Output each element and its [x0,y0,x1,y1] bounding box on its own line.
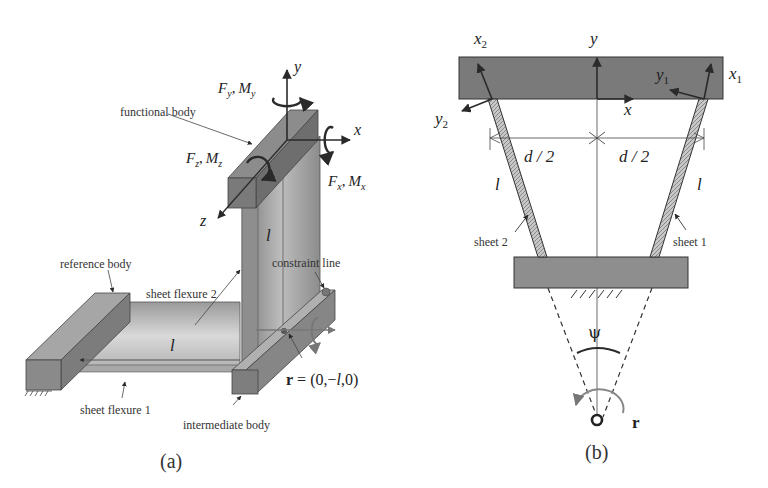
diagram-canvas: y x z Fy,My Fx,Mx Fz,Mz functional body … [0,0,768,488]
reference-body-b [514,257,688,288]
angle-psi-label: ψ [588,322,601,342]
rotation-r-icon-b [576,389,624,413]
label-functional-body: functional body [120,105,196,119]
label-sheet-flexure-1: sheet flexure 1 [80,403,151,417]
label-sheet-flexure-2: sheet flexure 2 [146,287,217,301]
instant-center-r [592,415,602,425]
svg-text:Fz,Mz: Fz,Mz [185,150,222,169]
z-axis-label-a: z [199,212,207,229]
length-left-b: l [495,175,500,194]
length-right-b: l [697,175,702,194]
ground-hatch-a [25,391,52,396]
ground-hatch-b [571,290,622,298]
half-width-right: d / 2 [619,147,650,166]
svg-text:Fy,My: Fy,My [217,80,256,99]
functional-body-b [459,57,723,99]
half-width-left: d / 2 [524,147,555,166]
label-sheet-2: sheet 2 [474,235,508,249]
y-axis-label-b: y [588,29,598,48]
caption-a: (a) [160,450,182,473]
r-label-b: r [632,413,640,432]
x-axis-label-b: x [623,100,632,119]
figure-b: y x x2 y2 x1 y1 d / 2 d / 2 l l sheet 2 … [433,29,742,464]
load-label-z: Fz,Mz [185,150,222,169]
label-sheet-1: sheet 1 [673,235,707,249]
length-label-vertical: l [266,226,271,245]
r-vector-label-a: r = (0,−l,0) [286,371,358,389]
label-intermediate-body: intermediate body [183,418,270,432]
length-label-horizontal: l [170,336,175,355]
figure-a: y x z Fy,My Fx,Mx Fz,Mz functional body … [25,58,366,473]
x-axis-label-a: x [353,121,361,138]
y2-axis-label: y2 [433,109,448,130]
y-axis-label-a: y [292,58,302,76]
label-constraint-line: constraint line [272,256,340,270]
label-reference-body: reference body [60,257,132,271]
load-label-y: Fy,My [217,80,256,99]
x2-axis-label: x2 [473,29,487,50]
x1-axis-label: x1 [728,64,742,85]
y2-axis [462,99,492,111]
svg-text:Fx,Mx: Fx,Mx [327,173,366,192]
caption-b: (b) [585,441,608,464]
load-label-x: Fx,Mx [327,173,366,192]
